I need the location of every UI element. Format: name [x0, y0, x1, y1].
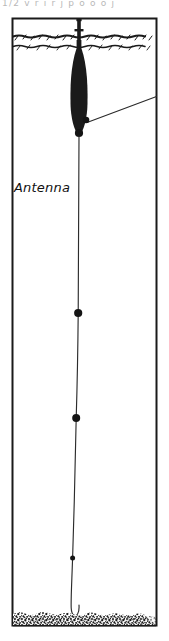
diagram-canvas — [0, 0, 169, 641]
mooring-diagram-figure: 1/2 v r i r j p o o o j — [0, 0, 169, 641]
instrument-node-1 — [74, 309, 82, 317]
instrument-node-2 — [72, 414, 80, 422]
instrument-node-3 — [70, 556, 75, 561]
antenna-label: Antenna — [14, 180, 70, 195]
